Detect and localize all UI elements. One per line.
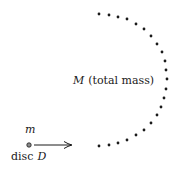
shell-dot xyxy=(165,69,168,72)
shell-dot xyxy=(164,60,167,63)
shell-label: M(total mass) xyxy=(72,74,154,87)
disc-label: discD xyxy=(11,150,46,163)
shell-dot xyxy=(117,16,120,19)
shell-dot xyxy=(156,43,159,46)
shell-mass-symbol: M xyxy=(72,74,85,87)
shell-dot xyxy=(98,145,101,148)
disc-symbol: D xyxy=(36,150,46,163)
velocity-arrow xyxy=(34,142,72,149)
shell-dot xyxy=(163,97,166,100)
shell-dot xyxy=(150,122,153,125)
shell-dot xyxy=(160,106,163,109)
shell-dot xyxy=(135,134,138,137)
shell-dot xyxy=(161,51,164,54)
disc-mass-symbol: m xyxy=(25,123,35,136)
shell-dot xyxy=(126,18,129,21)
disc-word: disc xyxy=(11,150,33,163)
shell-dot xyxy=(143,129,146,132)
shell-dot xyxy=(143,28,146,31)
shell-dot xyxy=(150,35,153,38)
shell-dot xyxy=(126,139,129,142)
disc-point xyxy=(27,143,31,147)
shell-dot xyxy=(98,13,101,16)
shell-mass-description: (total mass) xyxy=(88,74,154,87)
shell-dot xyxy=(117,142,120,145)
shell-dot xyxy=(108,14,111,17)
diagram-canvas: M(total mass) m discD xyxy=(0,0,178,171)
shell-dot xyxy=(166,78,169,81)
shell-dot xyxy=(165,88,168,91)
shell-dot xyxy=(108,144,111,147)
shell-dot xyxy=(135,23,138,26)
shell-dot xyxy=(156,114,159,117)
